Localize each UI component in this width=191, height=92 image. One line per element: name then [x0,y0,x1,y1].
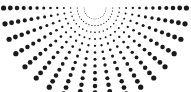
data-point [105,76,109,80]
data-point [145,6,148,9]
data-point [25,45,29,49]
data-point [19,32,23,36]
data-point [116,45,119,48]
data-point [137,14,140,17]
data-point [9,20,14,25]
data-point [97,25,98,26]
data-point [112,10,113,11]
data-point [84,11,85,12]
data-point [105,9,106,10]
data-point [63,12,65,14]
data-point [158,6,162,10]
data-point [75,40,77,42]
data-point [128,35,131,38]
data-point [100,24,101,25]
data-point [47,85,52,90]
data-point [117,73,121,77]
data-point [69,73,73,77]
data-point [31,42,35,46]
data-point [153,56,157,60]
data-point [89,17,90,18]
data-point [54,73,58,77]
data-point [96,18,97,19]
data-point [154,28,158,32]
data-point [166,32,170,36]
data-point [79,26,81,28]
data-point [106,83,110,87]
data-point [94,32,96,34]
data-point [71,16,73,18]
data-point [143,35,146,38]
data-point [2,21,7,26]
data-point [95,19,96,20]
data-point [139,61,143,65]
data-point [70,7,72,9]
data-point [73,19,75,21]
data-point [1,5,6,10]
data-point [56,7,58,9]
data-point [99,38,101,40]
data-point [119,79,123,83]
data-point [103,30,105,32]
data-point [13,51,18,56]
data-point [138,7,141,10]
data-point [148,52,152,56]
data-point [94,51,97,54]
data-point [61,62,65,66]
data-point [34,75,39,80]
data-point [94,38,96,40]
data-point [33,56,37,60]
data-point [91,18,92,19]
data-point [29,6,33,10]
data-point [117,16,119,18]
data-point [122,41,125,44]
data-point [84,9,85,10]
data-point [138,85,143,90]
data-point [78,13,79,14]
data-point [108,19,109,20]
data-point [138,44,141,47]
data-point [135,79,140,84]
data-point [79,83,83,87]
data-point [19,48,24,53]
data-point [182,21,187,26]
data-point [171,6,175,10]
data-point [148,26,151,29]
data-point [86,50,89,53]
data-point [93,58,96,61]
data-point [43,35,46,38]
data-point [15,6,19,10]
data-point [87,16,88,17]
data-point [43,15,46,18]
data-point [38,70,43,75]
data-point [37,38,41,42]
data-point [49,7,52,10]
data-point [144,15,147,18]
data-point [86,23,87,24]
data-point [160,45,164,49]
data-point [86,30,88,32]
data-point [176,20,181,25]
data-point [123,18,125,20]
data-point [50,79,55,84]
data-point [107,42,109,44]
data-point [184,5,189,10]
data-point [125,12,127,14]
data-point [57,68,61,72]
data-point [151,75,156,80]
data-point [138,32,141,35]
data-point [104,13,105,14]
data-point [125,7,127,9]
data-point [71,67,75,71]
data-point [143,66,147,70]
data-point [160,30,164,34]
data-point [39,26,42,29]
radial-dot-canvas [0,0,191,92]
data-point [103,23,104,24]
data-point [157,60,162,65]
data-point [91,25,92,26]
data-point [8,6,13,11]
data-point [93,18,94,19]
data-point [132,29,135,32]
data-point [55,29,58,32]
